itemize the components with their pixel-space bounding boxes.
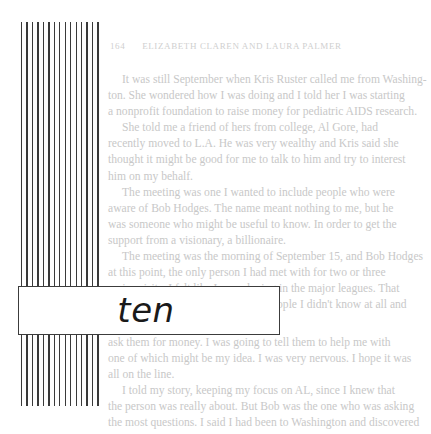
text-line: thought it might be good for me to talk … <box>108 152 428 168</box>
show-through-body-lower: ask them for money. I was going to tell … <box>108 335 431 432</box>
text-line: The meeting was the morning of September… <box>108 249 428 265</box>
text-line: The meeting was one I wanted to include … <box>108 185 428 201</box>
text-line: all on the line. <box>108 367 431 383</box>
page-number: 164 <box>110 41 125 51</box>
text-line: I told my story, keeping my focus on AL,… <box>108 383 431 399</box>
show-through-body-upper: It was still September when Kris Ruster … <box>108 72 428 313</box>
running-head-authors: ELIZABETH CLAREN AND LAURA PALMER <box>142 41 341 51</box>
running-head: 164 ELIZABETH CLAREN AND LAURA PALMER <box>110 38 342 54</box>
text-line: him on my behalf. <box>108 169 428 185</box>
text-line: aware of Bob Hodges. The name meant noth… <box>108 201 428 217</box>
text-line: at this point, the only person I had met… <box>108 265 428 281</box>
text-line: She told me a friend of hers from colleg… <box>108 120 428 136</box>
text-line: was someone who might be useful to know.… <box>108 217 428 233</box>
text-line: the most questions. I said I had been to… <box>108 415 431 431</box>
text-line: ton. She wondered how I was doing and I … <box>108 88 428 104</box>
decorative-vertical-stripes <box>21 22 103 406</box>
text-line: It was still September when Kris Ruster … <box>108 72 428 88</box>
chapter-title: ten <box>19 290 279 330</box>
chapter-title-box: ten <box>18 286 280 335</box>
text-line: ask them for money. I was going to tell … <box>108 335 431 351</box>
text-line: the person was really about. But Bob was… <box>108 399 431 415</box>
text-line: a nonprofit foundation to raise money fo… <box>108 104 428 120</box>
text-line: support from a visionary, a billionaire. <box>108 233 428 249</box>
text-line: one of which might be my idea. I was ver… <box>108 351 431 367</box>
text-line: recently moved to L.A. He was very wealt… <box>108 136 428 152</box>
